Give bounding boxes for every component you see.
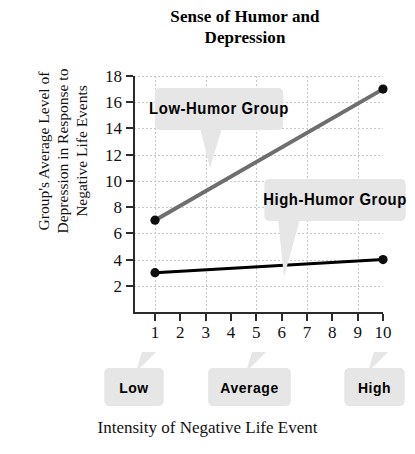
y-axis-tick-label: 10 xyxy=(105,172,122,189)
x-axis-tick-label: 9 xyxy=(353,324,362,341)
y-axis-tick xyxy=(126,285,133,287)
x-axis-tick xyxy=(205,314,207,321)
x-axis-tick xyxy=(179,314,181,321)
y-axis-label-line-3: Negative Life Events xyxy=(72,26,91,276)
series-line xyxy=(155,260,383,273)
y-axis-tick xyxy=(126,101,133,103)
y-axis-tick xyxy=(126,75,133,77)
y-axis-tick xyxy=(126,206,133,208)
callout-high-humor-group: High-Humor Group xyxy=(264,179,405,221)
y-axis-tick-label: 14 xyxy=(105,120,122,137)
x-axis-tick-label: 8 xyxy=(328,324,337,341)
callout-average-label: Average xyxy=(220,379,278,396)
x-axis-tick xyxy=(281,314,283,321)
y-axis-tick xyxy=(126,127,133,129)
y-axis-tick-label: 18 xyxy=(105,68,122,85)
x-axis-tick xyxy=(382,314,384,321)
y-axis-label-line-2: Depression in Response to xyxy=(53,26,72,276)
callout-low: Low xyxy=(104,368,164,406)
callout-low-humor-group-tail xyxy=(196,128,230,168)
data-point-marker xyxy=(378,255,387,264)
x-axis-tick xyxy=(357,314,359,321)
x-axis-tick-label: 6 xyxy=(277,324,286,341)
x-axis-tick xyxy=(255,314,257,321)
x-axis-tick xyxy=(331,314,333,321)
x-axis-tick-label: 3 xyxy=(201,324,210,341)
x-axis-label: Intensity of Negative Life Event xyxy=(0,418,415,438)
callout-low-humor-group: Low-Humor Group xyxy=(155,88,283,130)
x-axis-tick xyxy=(230,314,232,321)
chart-title-line-1: Sense of Humor and xyxy=(100,6,390,27)
y-axis-tick xyxy=(126,180,133,182)
x-axis-tick xyxy=(306,314,308,321)
y-axis-tick-label: 16 xyxy=(105,94,122,111)
y-axis-tick-label: 4 xyxy=(114,251,123,268)
callout-high-label: High xyxy=(358,379,391,396)
x-axis-tick-label: 1 xyxy=(151,324,160,341)
y-axis-label: Group's Average Level of Depression in R… xyxy=(34,26,92,276)
chart-title: Sense of Humor and Depression xyxy=(100,6,390,48)
y-axis-tick-label: 2 xyxy=(114,277,123,294)
x-axis-tick xyxy=(154,314,156,321)
y-axis-label-line-1: Group's Average Level of xyxy=(34,26,53,276)
figure: Sense of Humor and Depression Group's Av… xyxy=(0,0,415,454)
y-axis-tick-label: 6 xyxy=(114,225,123,242)
x-axis-tick-label: 10 xyxy=(375,324,392,341)
y-axis-tick xyxy=(126,259,133,261)
x-axis-tick-label: 5 xyxy=(252,324,261,341)
data-point-marker xyxy=(150,268,159,277)
callout-high-humor-group-tail xyxy=(272,219,312,277)
y-axis-tick xyxy=(126,154,133,156)
chart-title-line-2: Depression xyxy=(100,27,390,48)
data-point-marker xyxy=(150,216,159,225)
x-axis-tick-label: 4 xyxy=(227,324,236,341)
x-axis-tick-label: 2 xyxy=(176,324,185,341)
y-axis-tick-label: 12 xyxy=(105,146,122,163)
callout-low-label: Low xyxy=(119,379,149,396)
callout-low-humor-group-label: Low-Humor Group xyxy=(149,100,289,118)
callout-high-humor-group-label: High-Humor Group xyxy=(263,191,407,209)
y-axis-tick-label: 8 xyxy=(114,199,123,216)
data-point-marker xyxy=(378,85,387,94)
y-axis-tick xyxy=(126,232,133,234)
callout-average: Average xyxy=(208,368,291,406)
callout-high: High xyxy=(344,368,404,406)
x-axis-tick-label: 7 xyxy=(303,324,312,341)
